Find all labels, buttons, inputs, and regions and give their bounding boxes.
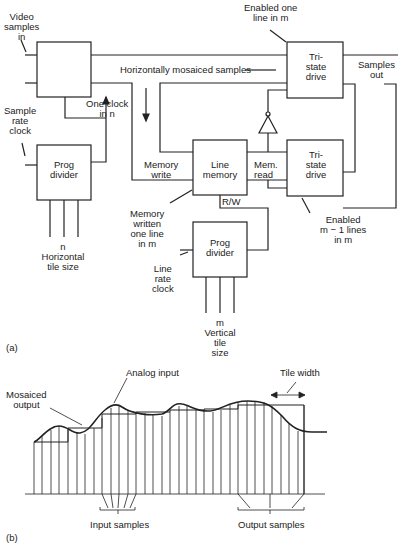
prog-divider-h-label: Progdivider <box>44 160 84 180</box>
enabled-one-label: Enabled oneline in m <box>244 3 297 23</box>
tristate-2-label: Tri-statedrive <box>300 150 332 180</box>
sample-rate-clock-label: Samplerateclock <box>4 106 36 136</box>
output-samples-label: Output samples <box>238 520 305 530</box>
prog-divider-v-label: Progdivider <box>200 238 240 258</box>
diagram-lines <box>0 0 402 545</box>
mosaiced-output-label: Mosaicedoutput <box>6 390 47 410</box>
h-mosaiced-label: Horizontally mosaiced samples <box>120 65 251 75</box>
input-register-box <box>37 42 91 97</box>
video-samples-in-label: Videosamplesin <box>4 12 39 42</box>
memory-write-label: Memorywrite <box>144 160 178 180</box>
sample-lines <box>34 401 304 494</box>
tristate-1-label: Tri-statedrive <box>300 52 332 82</box>
h-tile-size-label: nHorizontaltile size <box>38 242 88 272</box>
analog-input-label: Analog input <box>126 368 179 378</box>
input-samples-label: Input samples <box>90 520 149 530</box>
line-rate-clock-label: Linerateclock <box>152 264 174 294</box>
v-tile-size-label: mVerticaltilesize <box>198 318 242 358</box>
enabled-m1-label: Enabledm − 1 linesin m <box>320 215 366 245</box>
one-clock-label: One clockin n <box>86 99 128 119</box>
line-memory-label: Linememory <box>198 160 242 180</box>
rw-label: R/W <box>222 197 240 207</box>
memory-written-label: Memorywrittenone linein m <box>130 209 164 249</box>
tile-width-label: Tile width <box>280 368 320 378</box>
mem-read-label: Mem.read <box>254 160 278 180</box>
panel-b-label: (b) <box>6 533 18 543</box>
panel-a-label: (a) <box>6 343 18 353</box>
samples-out-label: Samplesout <box>358 60 395 80</box>
